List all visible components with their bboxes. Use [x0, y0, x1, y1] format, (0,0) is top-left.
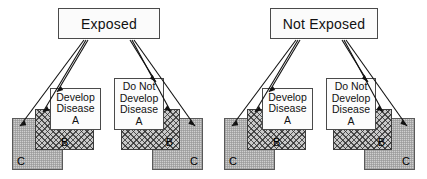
factor-c-label: C: [402, 155, 410, 167]
outcome-line-4: A: [135, 116, 142, 128]
exposure-box-exposed: Exposed: [58, 8, 160, 39]
outcome-line-3: Disease: [332, 104, 370, 116]
factor-b-label: B: [61, 136, 68, 148]
outcome-line-1: Do Not: [335, 81, 368, 93]
outcome-box-not-exposed-not-develop: Do Not Develop Disease A: [326, 78, 376, 130]
factor-b-label: B: [166, 136, 173, 148]
outcome-line-3: Disease: [120, 104, 158, 116]
outcome-box-exposed-not-develop: Do Not Develop Disease A: [114, 78, 164, 130]
exposure-box-not-exposed: Not Exposed: [270, 8, 378, 39]
factor-c-label: C: [229, 155, 237, 167]
arrow-not-exposed-to-develop-a: [269, 40, 300, 92]
factor-b-label: B: [273, 136, 280, 148]
outcome-line-1: Do Not: [123, 81, 156, 93]
exposure-box-exposed-label: Exposed: [81, 16, 137, 32]
factor-c-label: C: [17, 155, 25, 167]
outcome-line-3: A: [72, 115, 79, 127]
factor-c-label: C: [190, 155, 198, 167]
outcome-line-3: A: [284, 115, 291, 127]
outcome-line-4: A: [347, 116, 354, 128]
diagram-canvas: Exposed C B Develop Disease A C B Do Not…: [0, 0, 427, 179]
outcome-box-not-exposed-develop: Develop Disease A: [262, 88, 313, 130]
arrow-exposed-to-develop-a: [57, 40, 88, 92]
arrow-exposed-to-not-develop-a: [130, 40, 156, 82]
factor-b-label: B: [378, 136, 385, 148]
arrow-not-exposed-to-not-develop-a: [342, 40, 368, 82]
outcome-box-exposed-develop: Develop Disease A: [50, 88, 101, 130]
exposure-box-not-exposed-label: Not Exposed: [283, 16, 365, 32]
